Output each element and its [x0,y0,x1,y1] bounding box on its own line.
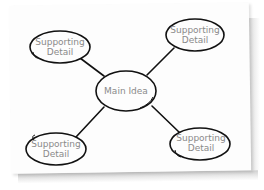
connector-bottom-left [76,107,104,137]
detail-label-line2: Detail [188,143,215,153]
detail-label-line1: Supporting [31,139,81,149]
detail-label-line2: Detail [182,35,209,45]
detail-label-line1: Supporting [170,25,220,35]
mind-map-diagram: Main Idea Supporting Detail Supporting D… [0,0,264,190]
detail-label-line1: Supporting [176,133,226,143]
svg-text:Supporting: Supporting [176,133,226,143]
supporting-detail-node-bottom-right: Supporting Detail [170,128,230,160]
supporting-detail-node-top-right: Supporting Detail [166,19,224,51]
svg-text:Supporting: Supporting [170,25,220,35]
svg-text:Detail: Detail [182,35,209,45]
svg-text:Supporting: Supporting [35,37,85,47]
main-idea-label: Main Idea [104,86,148,96]
detail-label-line1: Supporting [35,37,85,47]
svg-text:Detail: Detail [188,143,215,153]
supporting-detail-node-bottom-left: Supporting Detail [26,133,86,165]
detail-label-line2: Detail [47,47,74,57]
connector-top-right [147,48,174,75]
supporting-detail-node-top-left: Supporting Detail [30,31,90,63]
main-idea-node: Main Idea [96,71,156,111]
svg-text:Supporting: Supporting [31,139,81,149]
svg-text:Detail: Detail [47,47,74,57]
svg-text:Detail: Detail [43,149,70,159]
detail-label-line2: Detail [43,149,70,159]
connector-top-left [80,58,104,76]
connector-bottom-right [152,106,180,133]
